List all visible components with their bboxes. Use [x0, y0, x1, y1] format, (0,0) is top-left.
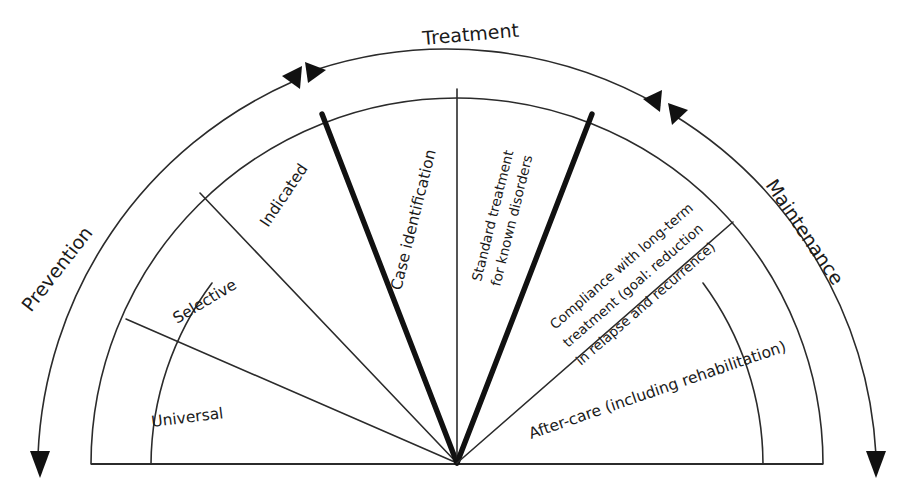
label-prevention: Prevention: [17, 222, 97, 316]
intervention-spectrum-diagram: Universal Selective Indicated Case ident…: [0, 0, 913, 496]
treatment-arrow-left-icon: [305, 62, 326, 83]
label-maintenance: Maintenance: [762, 175, 849, 289]
label-treatment: Treatment: [420, 19, 519, 49]
prevention-arrow-down-icon: [30, 451, 50, 478]
diagram-canvas: Universal Selective Indicated Case ident…: [0, 0, 913, 496]
treatment-arrow-right-icon: [643, 90, 662, 112]
maintenance-arrow-down-icon: [866, 451, 886, 478]
